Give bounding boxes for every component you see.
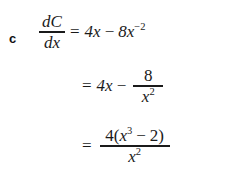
equals-sign-1: = xyxy=(70,23,80,40)
equals-sign-3: = xyxy=(82,137,92,154)
line3-numerator-lead: 4( xyxy=(105,126,119,145)
line2-fraction-numerator: 8 xyxy=(133,66,163,85)
derivative-fraction-dc-dx: dC dx xyxy=(39,12,65,52)
equation-line-3: = 4(x3−2) x2 xyxy=(80,126,173,166)
line1-term-1: 4x xyxy=(85,23,101,40)
derivative-numerator: dC xyxy=(39,12,65,31)
line3-numerator-tail: 2) xyxy=(150,126,164,145)
part-label-c: c xyxy=(9,32,16,45)
line3-denominator-exponent: 2 xyxy=(136,146,141,157)
equation-line-1: dC dx = 4x − 8x−2 xyxy=(36,12,146,52)
line1-term-2-exponent: −2 xyxy=(134,22,145,33)
line1-term-2-base: 8x xyxy=(118,22,134,41)
line2-operator: − xyxy=(117,77,127,94)
math-solution-block: c dC dx = 4x − 8x−2 = 4x − 8 x2 = 4(x3−2… xyxy=(0,0,231,191)
line1-operator: − xyxy=(105,23,115,40)
line2-fraction: 8 x2 xyxy=(133,66,163,106)
line3-numerator-exponent: 3 xyxy=(127,125,132,136)
line3-numerator-base: x xyxy=(119,126,127,145)
line3-fraction: 4(x3−2) x2 xyxy=(100,126,170,166)
equals-sign-2: = xyxy=(82,77,92,94)
line2-denominator-exponent: 2 xyxy=(149,86,154,97)
equation-line-2: = 4x − 8 x2 xyxy=(80,66,166,106)
line1-term-2: 8x−2 xyxy=(118,23,145,40)
line3-fraction-numerator: 4(x3−2) xyxy=(100,126,170,145)
line2-term-1: 4x xyxy=(97,77,113,94)
line2-fraction-denominator: x2 xyxy=(133,87,163,106)
line3-numerator-operator: − xyxy=(136,126,146,145)
line3-denominator-base: x xyxy=(128,147,136,166)
derivative-denominator: dx xyxy=(41,33,63,52)
line3-fraction-denominator: x2 xyxy=(100,147,170,166)
